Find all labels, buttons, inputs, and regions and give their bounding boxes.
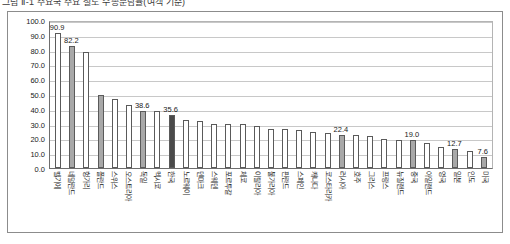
bar-slot: [462, 22, 476, 168]
bar-value-label: 22.4: [334, 125, 349, 134]
bar: [381, 139, 387, 168]
bar: [310, 132, 316, 168]
x-axis-slot: 네덜란드: [64, 170, 78, 232]
bar: [481, 157, 487, 168]
x-axis-label: 뉴질랜드: [396, 171, 403, 195]
bar: [339, 135, 345, 168]
bar: [296, 130, 302, 168]
x-axis-slot: 러시아: [335, 170, 349, 232]
x-axis-label: 멕시코: [153, 171, 160, 189]
x-axis-slot: 아일랜드: [421, 170, 435, 232]
bar-value-label: 12.7: [447, 139, 462, 148]
bar-slot: 7.6: [477, 22, 491, 168]
y-axis: 100.090.080.070.060.050.040.030.020.010.…: [8, 15, 47, 175]
x-axis-slot: 코스타리카: [321, 170, 335, 232]
bar: [69, 46, 75, 168]
y-axis-tick: 30.0: [30, 120, 45, 129]
x-axis-label: 코스타리카: [325, 171, 332, 201]
x-axis-slot: 이탈리아: [250, 170, 264, 232]
bar-slot: [264, 22, 278, 168]
bar: [211, 124, 217, 168]
bar: [140, 111, 146, 168]
y-axis-tick: 60.0: [30, 76, 45, 85]
x-axis-label: 덴마크: [196, 171, 203, 189]
y-axis-tick: 50.0: [30, 91, 45, 100]
y-axis-tick: 100.0: [26, 17, 45, 26]
bar-slot: [363, 22, 377, 168]
bar: [452, 149, 458, 168]
bar: [225, 124, 231, 168]
bar: [154, 111, 160, 168]
bar-slot: [377, 22, 391, 168]
bar: [367, 136, 373, 168]
bar-slot: [207, 22, 221, 168]
bar: [112, 99, 118, 168]
x-axis-slot: 오스트리아: [121, 170, 135, 232]
bar: [55, 33, 61, 168]
x-axis-slot: 덴마크: [193, 170, 207, 232]
bar-value-label: 82.2: [64, 36, 79, 45]
x-axis-slot: 한국: [164, 170, 178, 232]
bar-value-label: 38.6: [135, 101, 150, 110]
x-axis-slot: 스페인: [293, 170, 307, 232]
bar-slot: [235, 22, 249, 168]
x-axis-slot: 미국: [478, 170, 492, 232]
x-axis-label: 아일랜드: [425, 171, 432, 195]
chart-page: 그림 Ⅱ-1 주요국 주요 철도 수송분담률(여객 기준) 100.090.08…: [0, 0, 510, 244]
x-axis-slot: 뉴질랜드: [392, 170, 406, 232]
bar-slot: 82.2: [65, 22, 79, 168]
figure-title: 그림 Ⅱ-1 주요국 주요 철도 수송분담률(여객 기준): [2, 0, 185, 8]
x-axis-slot: 영국: [435, 170, 449, 232]
bar-slot: 35.6: [165, 22, 179, 168]
x-axis-slot: 포르투갈: [221, 170, 235, 232]
bar-slot: [349, 22, 363, 168]
bar: [197, 121, 203, 168]
x-axis-slot: 헝가리: [79, 170, 93, 232]
bar-slot: [292, 22, 306, 168]
x-axis-label: 미국: [482, 171, 489, 183]
bar: [254, 126, 260, 168]
x-axis-slot: 중국: [407, 170, 421, 232]
bar: [438, 147, 444, 168]
bar-slot: [122, 22, 136, 168]
x-axis: 벨기에네덜란드헝가리폴란드스위스오스트리아독일멕시코한국노르웨이덴마크스웨덴포르…: [49, 170, 493, 232]
x-axis-label: 노르웨이: [182, 171, 189, 195]
bar-slot: 22.4: [335, 22, 349, 168]
x-axis-slot: 멕시코: [150, 170, 164, 232]
x-axis-label: 독일: [139, 171, 146, 183]
chart-frame: 100.090.080.070.060.050.040.030.020.010.…: [7, 11, 503, 233]
bar-value-label: 7.6: [478, 147, 488, 156]
bar: [467, 151, 473, 168]
bar-slot: [193, 22, 207, 168]
x-axis-label: 영국: [439, 171, 446, 183]
x-axis-slot: 폴란드: [93, 170, 107, 232]
bar-slot: [321, 22, 335, 168]
x-axis-label: 네덜란드: [68, 171, 75, 195]
x-axis-label: 한국: [168, 171, 175, 183]
x-axis-label: 이탈리아: [253, 171, 260, 195]
y-axis-tick: 10.0: [30, 150, 45, 159]
bar-slot: [250, 22, 264, 168]
bar-slot: [392, 22, 406, 168]
plot-area: 90.982.238.635.622.419.012.77.6: [49, 21, 493, 169]
bar-value-label: 35.6: [163, 105, 178, 114]
bar-slot: [221, 22, 235, 168]
x-axis-label: 헝가리: [82, 171, 89, 189]
bar: [282, 129, 288, 168]
x-axis-slot: 벨기에: [50, 170, 64, 232]
bar: [410, 140, 416, 168]
x-axis-label: 호주: [353, 171, 360, 183]
bar: [126, 105, 132, 168]
x-axis-label: 핀란드: [282, 171, 289, 189]
bar-slot: [278, 22, 292, 168]
x-axis-slot: 체코: [235, 170, 249, 232]
x-axis-label: 스페인: [296, 171, 303, 189]
x-axis-slot: 스웨덴: [207, 170, 221, 232]
bar-series: 90.982.238.635.622.419.012.77.6: [50, 22, 492, 168]
x-axis-slot: 노르웨이: [178, 170, 192, 232]
x-axis-label: 중국: [410, 171, 417, 183]
x-axis-label: 프랑스: [382, 171, 389, 189]
bar-slot: 19.0: [406, 22, 420, 168]
x-axis-slot: 인도: [464, 170, 478, 232]
bar-value-label: 19.0: [404, 130, 419, 139]
